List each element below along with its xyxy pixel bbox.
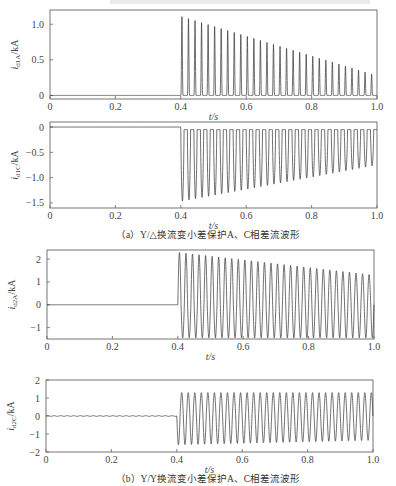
y-tick-label: 0.5: [32, 54, 45, 65]
y-tick-label: 1: [35, 393, 40, 404]
x-tick-label: 0.4: [171, 454, 184, 465]
chart-panel-4: 00.20.40.60.81.0t/s210−1−2id2C/kA: [5, 375, 379, 476]
y-tick-label: −1: [30, 322, 41, 333]
y-tick-label: 1.0: [32, 19, 45, 30]
chart-panel-2: 00.20.40.60.81.0t/s0−0.5−1.0−1.5id1C/kA: [9, 122, 383, 231]
waveform-series: [50, 127, 377, 201]
y-tick-label: −2: [29, 447, 40, 458]
x-tick-label: 0.4: [175, 101, 188, 112]
x-tick-label: 0: [45, 341, 50, 352]
y-axis-label: id2C/kA: [5, 400, 18, 430]
x-tick-label: 0.6: [240, 101, 253, 112]
x-tick-label: 0.8: [302, 341, 315, 352]
waveform-series: [50, 17, 377, 96]
x-tick-label: 1.0: [371, 101, 384, 112]
x-tick-label: 0: [48, 210, 53, 221]
y-axis-label: id2A/kA: [6, 279, 19, 310]
x-tick-label: 1.0: [368, 341, 381, 352]
x-axis-label: t/s: [206, 351, 216, 362]
x-tick-label: 0.8: [301, 454, 314, 465]
y-tick-label: 0: [39, 90, 44, 101]
y-tick-label: −1.0: [26, 172, 44, 183]
waveform-series: [46, 393, 373, 445]
x-tick-label: 0: [44, 454, 49, 465]
x-tick-label: 1.0: [367, 454, 380, 465]
x-tick-label: 0.4: [175, 210, 188, 221]
x-tick-label: 0.2: [109, 101, 122, 112]
y-axis-label: id1C/kA: [9, 149, 22, 179]
y-tick-label: 0: [36, 299, 41, 310]
plot-frame: [50, 10, 377, 99]
figure: （a）Y/△换流变小差保护A、C相差流波形 （b）Y/Y换流变小差保护A、C相差…: [0, 0, 396, 486]
y-tick-label: 2: [35, 375, 40, 386]
y-tick-label: −1.5: [26, 197, 44, 208]
y-tick-label: 2: [36, 254, 41, 265]
x-tick-label: 0.2: [109, 210, 122, 221]
x-tick-label: 0.8: [305, 210, 318, 221]
x-tick-label: 0.2: [105, 454, 118, 465]
y-tick-label: 0: [39, 122, 44, 133]
y-axis-label: id1A/kA: [9, 39, 22, 70]
y-tick-label: −0.5: [26, 147, 44, 158]
x-axis-label: t/s: [205, 464, 215, 475]
x-axis-label: t/s: [209, 111, 219, 122]
x-axis-label: t/s: [209, 220, 219, 231]
y-tick-label: 0: [35, 411, 40, 422]
x-tick-label: 0.6: [237, 341, 250, 352]
x-tick-label: 0: [48, 101, 53, 112]
chart-panel-1: 00.20.40.60.81.0t/s00.51.0id1A/kA: [9, 10, 383, 122]
y-tick-label: 1: [36, 276, 41, 287]
x-tick-label: 0.6: [240, 210, 253, 221]
x-tick-label: 1.0: [371, 210, 384, 221]
x-tick-label: 0.8: [305, 101, 318, 112]
x-tick-label: 0.4: [172, 341, 185, 352]
chart-panel-3: 00.20.40.60.81.0t/s210−1id2A/kA: [6, 250, 380, 362]
x-tick-label: 0.2: [106, 341, 119, 352]
waveform-series: [47, 252, 374, 337]
y-tick-label: −1: [29, 429, 40, 440]
x-tick-label: 0.6: [236, 454, 249, 465]
